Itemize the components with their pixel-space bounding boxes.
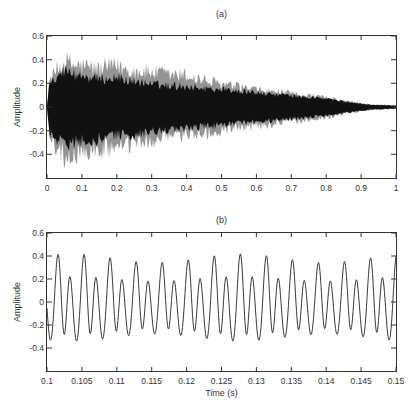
x-tick-label-b: 0.135 [281,376,302,386]
x-tick-label-b: 0.13 [248,376,265,386]
x-tick-label-b: 0.115 [141,376,162,386]
y-tick-label-a: -0.2 [18,126,44,136]
x-tick-label-a: 0.8 [320,183,332,193]
y-tick-label-a: 0 [18,102,44,112]
subplot-a-axes [46,35,397,179]
y-tick-label-a: 0.2 [18,78,44,88]
subplot-b-title: (b) [47,215,396,225]
x-tick-label-a: 0.3 [146,183,158,193]
y-tick-label-b: 0.6 [18,228,44,238]
subplot-a-title: (a) [47,9,396,19]
x-tick-label-b: 0.15 [388,376,405,386]
x-tick-label-b: 0.11 [109,376,125,386]
y-tick-label-a: 0.4 [18,55,44,65]
x-tick-label-b: 0.105 [71,376,92,386]
x-tick-label-a: 0.9 [355,183,367,193]
x-tick-label-a: 1 [394,183,399,193]
y-tick-label-b: -0.4 [18,343,44,353]
x-tick-label-b: 0.12 [178,376,195,386]
y-tick-label-b: 0 [18,297,44,307]
x-tick-label-a: 0.2 [111,183,123,193]
plot-path [47,254,396,341]
y-tick-label-a: 0.6 [18,31,44,41]
subplot-b-xlabel: Time (s) [47,388,396,398]
x-tick-label-b: 0.145 [350,376,371,386]
x-tick-label-a: 0.7 [285,183,297,193]
x-tick-label-b: 0.1 [41,376,53,386]
x-tick-label-a: 0.4 [181,183,193,193]
y-tick-label-b: -0.2 [18,320,44,330]
y-tick-label-b: 0.2 [18,274,44,284]
x-tick-label-a: 0.6 [250,183,262,193]
subplot-a-plot [47,36,396,178]
x-tick-label-a: 0.5 [216,183,228,193]
x-tick-label-a: 0 [45,183,50,193]
tick-marks [47,233,396,371]
subplot-b-plot [47,233,396,371]
y-tick-label-b: 0.4 [18,251,44,261]
x-tick-label-b: 0.125 [211,376,232,386]
y-tick-label-a: -0.4 [18,149,44,159]
x-tick-label-b: 0.14 [318,376,335,386]
subplot-b-axes [46,232,397,372]
x-tick-label-a: 0.1 [76,183,88,193]
waveform-figure: (a) Amplitude (b) Amplitude Time (s) 00.… [0,0,419,420]
